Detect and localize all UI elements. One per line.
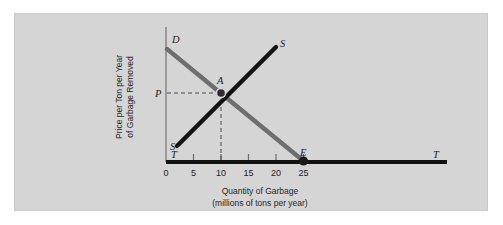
- tax-line-label-right: T: [433, 149, 440, 160]
- xtick-label-5: 5: [191, 168, 196, 178]
- x-axis-ticks: [194, 154, 304, 160]
- supply-curve-label-upper: S: [280, 38, 286, 49]
- point-a-label: A: [216, 75, 224, 86]
- supply-curve: [177, 47, 276, 146]
- y-axis-title-line2: of Garbage Removed: [125, 56, 135, 138]
- x-axis-title-line1: Quantity of Garbage: [222, 186, 299, 196]
- xtick-label-10: 10: [216, 168, 226, 178]
- x-axis-title-line2: (millions of tons per year): [212, 198, 308, 208]
- demand-curve: [167, 49, 304, 161]
- economics-supply-demand-chart: D S S A E P T T 0 5 10 15 20 25 Quantity…: [15, 14, 489, 212]
- xtick-label-0: 0: [163, 168, 168, 178]
- xtick-label-25: 25: [298, 168, 308, 178]
- point-e-label: E: [299, 147, 307, 158]
- xtick-label-20: 20: [271, 168, 281, 178]
- y-axis-title-line1: Price per Ton per Year: [114, 55, 124, 139]
- equilibrium-point-a: [216, 88, 225, 97]
- figure-panel: D S S A E P T T 0 5 10 15 20 25 Quantity…: [14, 13, 488, 211]
- xtick-label-15: 15: [243, 168, 253, 178]
- tax-line-label-left: T: [171, 149, 178, 160]
- demand-curve-label: D: [171, 34, 180, 45]
- price-axis-label-p: P: [154, 88, 162, 99]
